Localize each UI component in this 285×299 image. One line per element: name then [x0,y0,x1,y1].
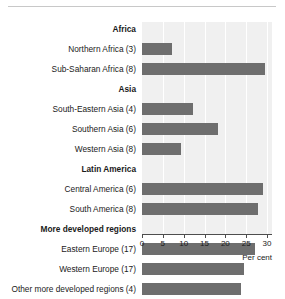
tick-label-15: 15 [195,239,215,248]
tick-mark-5 [163,234,164,238]
category-label: Central America (6) [0,179,136,199]
tick-mark-30 [267,234,268,238]
bar-row: Other more developed regions (4) [0,279,285,299]
bar-row: South America (8) [0,199,285,219]
category-label: Sub-Saharan Africa (8) [0,59,136,79]
category-label: South-Eastern Asia (4) [0,99,136,119]
group-header-row: Latin America [0,159,285,179]
bar-row: Sub-Saharan Africa (8) [0,59,285,79]
tick-mark-20 [225,234,226,238]
category-label: Northern Africa (3) [0,39,136,59]
category-label: Western Europe (17) [0,259,136,279]
tick-label-30: 30 [257,239,277,248]
bar [142,283,241,295]
group-label: More developed regions [0,219,136,239]
tick-label-20: 20 [215,239,235,248]
category-label: Eastern Europe (17) [0,239,136,259]
category-label: Southern Asia (6) [0,119,136,139]
tick-mark-25 [246,234,247,238]
tick-label-10: 10 [174,239,194,248]
tick-label-25: 25 [236,239,256,248]
group-label: Africa [0,19,136,39]
bar [142,263,244,275]
bar [142,103,193,115]
category-label: South America (8) [0,199,136,219]
bar [142,43,172,55]
top-divider-rule [8,6,276,7]
tick-label-0: 0 [132,239,152,248]
bar-row: South-Eastern Asia (4) [0,99,285,119]
tick-mark-0 [142,234,143,238]
category-label: Other more developed regions (4) [0,279,136,299]
bar [142,143,181,155]
group-header-row: Africa [0,19,285,39]
bar [142,203,258,215]
group-label: Latin America [0,159,136,179]
x-axis-title: Per cent [242,253,272,262]
group-label: Asia [0,79,136,99]
tick-mark-15 [205,234,206,238]
bar-row: Southern Asia (6) [0,119,285,139]
bar [142,183,263,195]
bar-row: Western Europe (17) [0,259,285,279]
bar [142,63,265,75]
tick-label-5: 5 [153,239,173,248]
category-label: Western Asia (8) [0,139,136,159]
bar-row: Western Asia (8) [0,139,285,159]
bar-row: Central America (6) [0,179,285,199]
tick-mark-10 [184,234,185,238]
bar-row: Northern Africa (3) [0,39,285,59]
bar [142,123,218,135]
group-header-row: Asia [0,79,285,99]
x-axis-line [142,234,272,235]
